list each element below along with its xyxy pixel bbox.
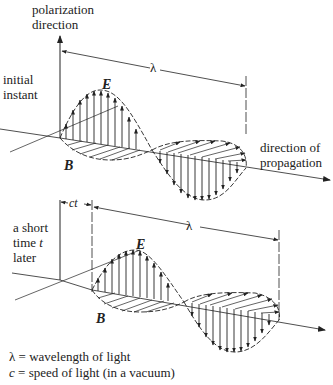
propagation-axis [0, 129, 60, 138]
wavelength-label-top: λ [150, 60, 156, 75]
polarization-label: polarization direction [32, 2, 94, 32]
legend-item-c: c = speed of light (in a vacuum) [9, 365, 175, 381]
legend-item-lambda: λ = wavelength of light [9, 349, 175, 365]
electromagnetic-wave-diagram [0, 0, 333, 385]
bottom-panel [12, 200, 325, 352]
ct-label: ct [69, 196, 78, 211]
propagation-label: direction of propagation [260, 140, 322, 170]
legend: λ = wavelength of light c = speed of lig… [9, 349, 175, 381]
wavelength-label-bottom: λ [186, 218, 192, 233]
e-field-label-top: E [102, 77, 111, 92]
top-panel [0, 36, 330, 200]
b-field-label-top: B [64, 158, 73, 173]
short-time-later-label: a short time t later [13, 220, 48, 265]
e-field-label-bottom: E [136, 237, 145, 252]
b-field-label-bottom: B [96, 311, 105, 326]
initial-instant-label: initial instant [3, 72, 38, 102]
